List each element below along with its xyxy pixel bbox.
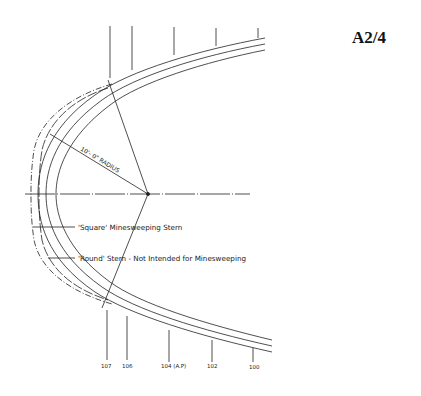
radius-label: 10'- 0" RADIUS — [79, 145, 121, 174]
radius-line-upper — [108, 80, 148, 194]
square-stern-label: 'Square' Minesweeping Stern — [78, 223, 182, 232]
round-stern-label: 'Round' Stern - Not Intended for Mineswe… — [78, 254, 246, 263]
hull-line-inner — [56, 50, 272, 340]
station-label: 104 (A.P) — [161, 363, 186, 369]
center-point — [146, 192, 149, 195]
station-label: 106 — [122, 363, 133, 369]
station-label: 100 — [249, 364, 260, 370]
hull-line-mid — [46, 44, 272, 346]
station-label: 102 — [207, 363, 218, 369]
station-label: 107 — [101, 363, 112, 369]
radius-line-lower — [102, 194, 148, 308]
stern-plan-drawing: 10'- 0" RADIUS 'Square' Minesweeping Ste… — [0, 0, 421, 396]
radius-line — [50, 134, 148, 194]
